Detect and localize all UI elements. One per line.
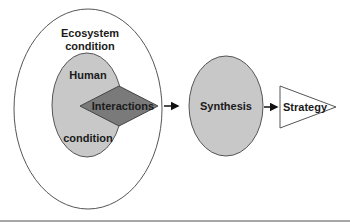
- condition-label: condition: [63, 132, 113, 144]
- ecosystem-label-line2: condition: [65, 40, 115, 52]
- ecosystem-label-line1: Ecosystem: [61, 27, 119, 39]
- strategy-label: Strategy: [283, 101, 328, 113]
- human-label: Human: [69, 69, 107, 81]
- synthesis-label: Synthesis: [200, 100, 252, 112]
- diagram-canvas: Ecosystem condition Human condition Inte…: [0, 0, 350, 224]
- interactions-label: Interactions: [92, 100, 154, 112]
